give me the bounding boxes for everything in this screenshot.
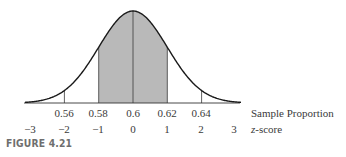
tick-label-0.64: 0.64 — [191, 107, 211, 119]
tick-label-0.6: 0.6 — [126, 107, 140, 119]
tick-label-0.62: 0.62 — [157, 107, 176, 119]
z-score-suffix: -score — [255, 123, 282, 135]
z-label-1: 1 — [164, 123, 170, 135]
axis-title-z-score: z-score — [250, 123, 282, 135]
z-label-minus-2: −2 — [58, 123, 70, 135]
tick-label-0.58: 0.58 — [88, 107, 108, 119]
z-label-minus-1: −1 — [92, 123, 104, 135]
axis-title-sample-proportion: Sample Proportion — [251, 107, 334, 119]
z-label-3: 3 — [231, 123, 237, 135]
vertical-reference-lines — [64, 11, 201, 103]
tick-label-0.56: 0.56 — [54, 107, 74, 119]
normal-distribution-figure: 0.56 0.58 0.6 0.62 0.64 Sample Proportio… — [0, 0, 346, 157]
z-label-0: 0 — [130, 123, 136, 135]
z-label-2: 2 — [198, 123, 204, 135]
figure-caption: FIGURE 4.21 — [6, 137, 72, 149]
z-label-minus-3: −3 — [24, 123, 36, 135]
